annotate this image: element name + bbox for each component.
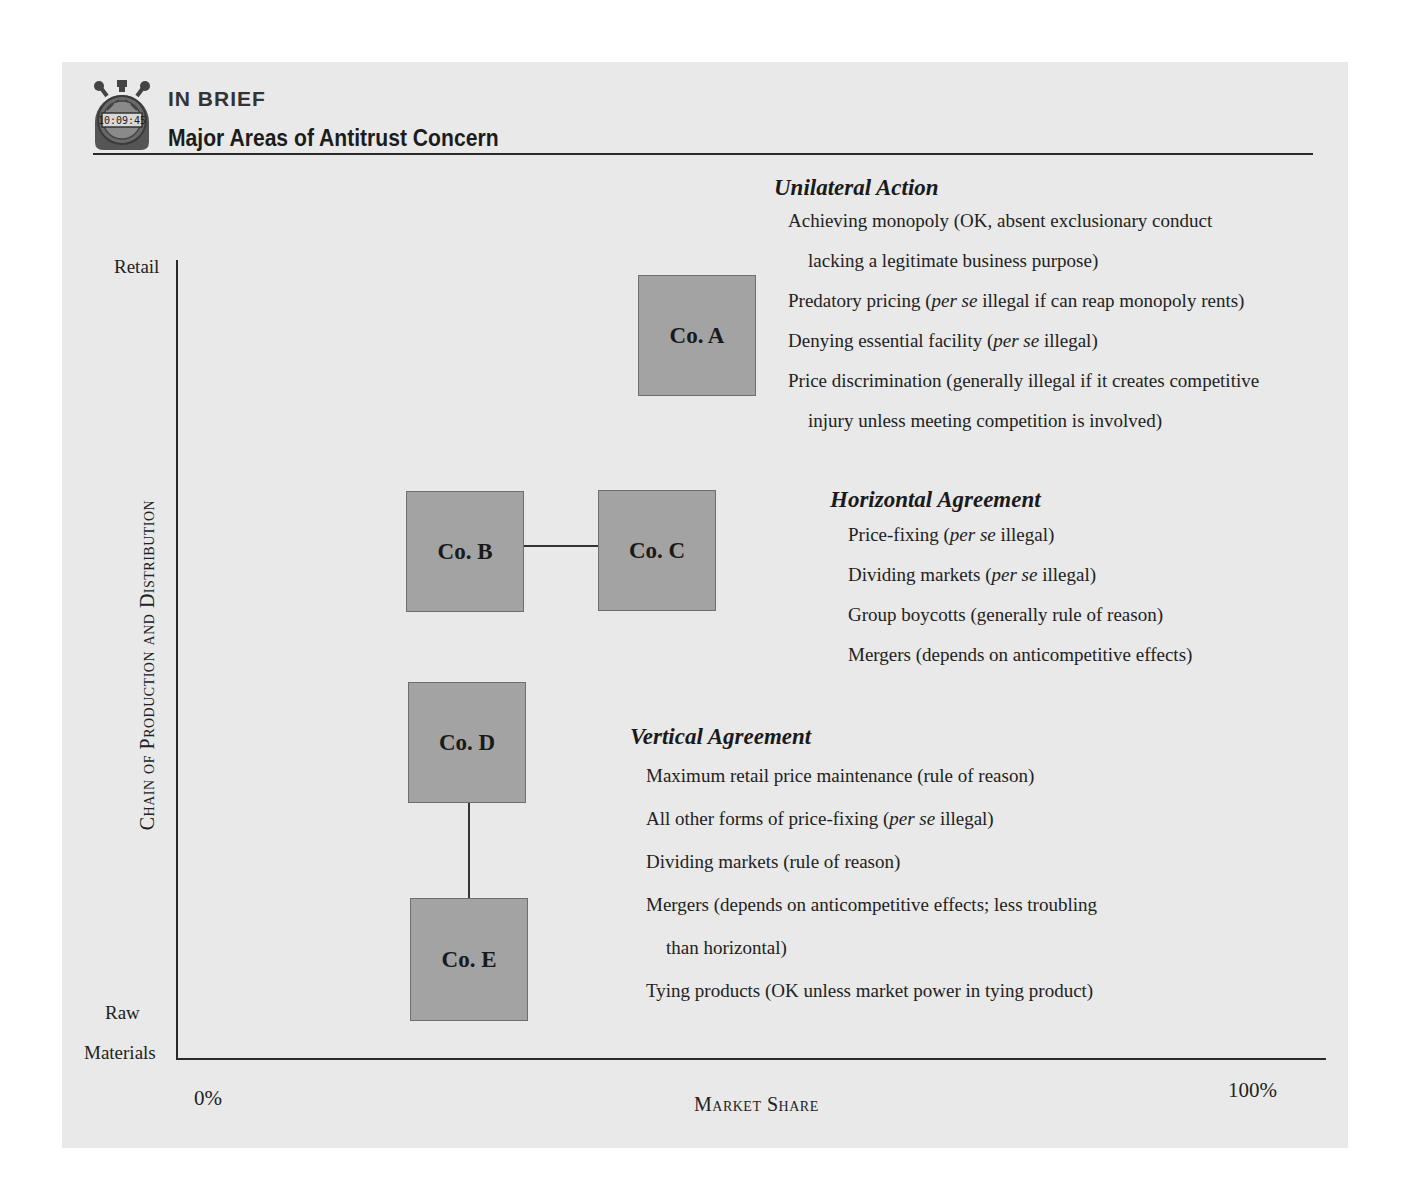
list-item: Denying essential facility (per se illeg… — [788, 321, 1259, 361]
y-axis-title: Chain of Production and Distribution — [136, 500, 159, 830]
page-title: Major Areas of Antitrust Concern — [168, 124, 499, 152]
header-divider — [93, 153, 1313, 155]
x-axis-min-label: 0% — [194, 1086, 222, 1111]
y-axis-top-label: Retail — [114, 256, 159, 278]
list-item-continuation: injury unless meeting competition is inv… — [788, 401, 1259, 441]
company-box-b: Co. B — [406, 491, 524, 612]
list-item: Group boycotts (generally rule of reason… — [848, 595, 1192, 635]
list-item: Maximum retail price maintenance (rule o… — [646, 754, 1097, 797]
x-axis-max-label: 100% — [1228, 1078, 1277, 1103]
company-box-a: Co. A — [638, 275, 756, 396]
list-item-continuation: lacking a legitimate business purpose) — [788, 241, 1259, 281]
list-item: Mergers (depends on anticompetitive effe… — [848, 635, 1192, 675]
y-axis-bottom-label-line2: Materials — [84, 1042, 156, 1064]
section-heading: Horizontal Agreement — [830, 487, 1192, 513]
svg-text:10:09:45: 10:09:45 — [98, 115, 146, 126]
list-item-continuation: than horizontal) — [646, 926, 1097, 969]
section-heading: Unilateral Action — [774, 175, 1259, 201]
list-item: Predatory pricing (per se illegal if can… — [788, 281, 1259, 321]
in-brief-label: IN BRIEF — [168, 87, 266, 111]
section-heading: Vertical Agreement — [630, 724, 1097, 750]
section-horizontal-agreement: Horizontal Agreement Price-fixing (per s… — [830, 487, 1192, 675]
list-item: Achieving monopoly (OK, absent exclusion… — [788, 201, 1259, 241]
y-axis-bottom-label-line1: Raw — [105, 1002, 140, 1024]
company-box-e: Co. E — [410, 898, 528, 1021]
y-axis-line — [176, 260, 178, 1060]
section-vertical-agreement: Vertical Agreement Maximum retail price … — [630, 724, 1097, 1012]
list-item: Dividing markets (rule of reason) — [646, 840, 1097, 883]
company-label: Co. B — [438, 539, 493, 565]
section-unilateral-action: Unilateral Action Achieving monopoly (OK… — [774, 175, 1259, 441]
company-box-c: Co. C — [598, 490, 716, 611]
company-label: Co. A — [670, 323, 725, 349]
list-item: Mergers (depends on anticompetitive effe… — [646, 883, 1097, 926]
x-axis-title: Market Share — [694, 1093, 819, 1116]
list-item: Tying products (OK unless market power i… — [646, 969, 1097, 1012]
list-item: Price-fixing (per se illegal) — [848, 515, 1192, 555]
company-label: Co. D — [439, 730, 495, 756]
horizontal-connector — [524, 545, 598, 547]
company-label: Co. C — [629, 538, 685, 564]
company-box-d: Co. D — [408, 682, 526, 803]
x-axis-line — [176, 1058, 1326, 1060]
list-item: All other forms of price-fixing (per se … — [646, 797, 1097, 840]
company-label: Co. E — [442, 947, 497, 973]
list-item: Dividing markets (per se illegal) — [848, 555, 1192, 595]
stopwatch-icon: 10:09:45 — [89, 78, 155, 152]
vertical-connector — [468, 803, 470, 899]
list-item: Price discrimination (generally illegal … — [788, 361, 1259, 401]
